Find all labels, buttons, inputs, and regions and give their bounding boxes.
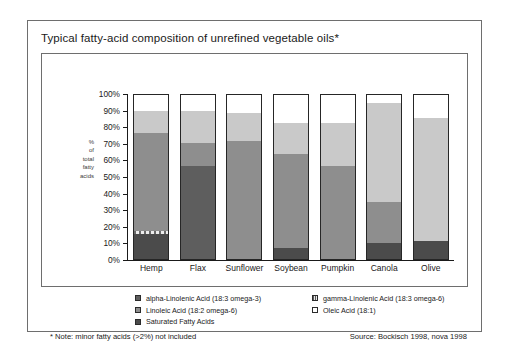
x-axis-category-label: Soybean xyxy=(268,263,315,273)
y-axis-tick-label: 10% xyxy=(103,238,120,248)
bar-segment-blank xyxy=(134,95,168,111)
y-axis-tick-label: 40% xyxy=(103,189,120,199)
bar-slot xyxy=(221,94,268,260)
legend-column-left: alpha-Linolenic Acid (18:3 omega-3)Linol… xyxy=(135,293,261,328)
y-axis-tick-mark xyxy=(123,94,127,95)
footer-note: * Note: minor fatty acids (>2%) not incl… xyxy=(50,332,196,341)
bar-segment-alpha xyxy=(181,166,215,259)
stacked-bar[interactable] xyxy=(226,94,262,260)
bar-segment-sat xyxy=(414,241,448,259)
stacked-bar[interactable] xyxy=(320,94,356,260)
x-axis-category-label: Flax xyxy=(175,263,222,273)
chart-legend: alpha-Linolenic Acid (18:3 omega-3)Linol… xyxy=(50,293,470,327)
bar-segment-blank xyxy=(414,95,448,118)
legend-item[interactable]: gamma-Linolenic Acid (18:3 omega-6) xyxy=(312,293,444,304)
stacked-bar[interactable] xyxy=(366,94,402,260)
stacked-bar[interactable] xyxy=(133,94,169,260)
bar-slot xyxy=(268,94,315,260)
y-axis-tick-label: 20% xyxy=(103,222,120,232)
stacked-bar[interactable] xyxy=(413,94,449,260)
bar-segment-linoleic xyxy=(321,166,355,259)
figure-outer-frame: Typical fatty-acid composition of unrefi… xyxy=(27,20,482,332)
y-axis-tick-mark xyxy=(123,227,127,228)
footer-source: Source: Bockisch 1998, nova 1998 xyxy=(350,332,467,341)
x-axis-category-label: Sunflower xyxy=(221,263,268,273)
bar-segment-linoleic xyxy=(367,202,401,243)
bar-segment-oleic xyxy=(181,111,215,142)
legend-swatch-icon xyxy=(135,319,141,325)
legend-item-label: gamma-Linolenic Acid (18:3 omega-6) xyxy=(323,294,444,303)
stacked-bar[interactable] xyxy=(273,94,309,260)
legend-swatch-icon xyxy=(135,307,141,313)
bar-segment-oleic xyxy=(274,123,308,154)
chart-inner-frame: %oftotalfattyacids 100%90%80%70%60%50%40… xyxy=(41,53,468,287)
y-axis-tick-mark xyxy=(123,111,127,112)
legend-column-right: gamma-Linolenic Acid (18:3 omega-6)Oleic… xyxy=(312,293,444,317)
x-axis-category-label: Canola xyxy=(361,263,408,273)
bar-segment-oleic xyxy=(367,103,401,201)
legend-item[interactable]: Linoleic Acid (18:2 omega-6) xyxy=(135,305,261,316)
legend-item-label: Saturated Fatty Acids xyxy=(146,317,214,326)
y-axis-tick-label: 100% xyxy=(99,89,120,99)
x-axis-category-label: Olive xyxy=(407,263,454,273)
x-axis-line xyxy=(127,260,454,261)
bar-segment-blank xyxy=(367,95,401,103)
x-axis-category-label: Pumpkin xyxy=(314,263,361,273)
y-axis-tick-label: 60% xyxy=(103,155,120,165)
y-axis-tick-mark xyxy=(123,194,127,195)
y-axis-tick-mark xyxy=(123,210,127,211)
y-axis-tick-labels: 100%90%80%70%60%50%40%30%20%10%0% xyxy=(90,94,124,260)
y-axis-tick-mark xyxy=(123,144,127,145)
bar-segment-sat xyxy=(134,234,168,259)
bar-segment-oleic xyxy=(134,111,168,132)
bar-slot xyxy=(314,94,361,260)
y-axis-tick-mark xyxy=(123,160,127,161)
legend-item-label: Linoleic Acid (18:2 omega-6) xyxy=(146,306,237,315)
y-axis-tick-label: 50% xyxy=(103,172,120,182)
y-axis-tick-label: 90% xyxy=(103,106,120,116)
bar-slot xyxy=(128,94,175,260)
y-axis-tick-label: 30% xyxy=(103,205,120,215)
bar-segment-linoleic xyxy=(274,154,308,247)
y-axis-tick-label: 0% xyxy=(108,255,120,265)
bar-segment-oleic xyxy=(321,123,355,166)
stacked-bar[interactable] xyxy=(180,94,216,260)
y-axis-tick-label: 80% xyxy=(103,122,120,132)
legend-item-label: alpha-Linolenic Acid (18:3 omega-3) xyxy=(146,294,261,303)
y-axis-tick-mark xyxy=(123,260,127,261)
legend-swatch-icon xyxy=(312,307,318,313)
legend-swatch-icon xyxy=(135,295,141,301)
bar-segment-blank xyxy=(274,95,308,123)
bar-segment-blank xyxy=(321,95,355,123)
x-axis-category-labels: HempFlaxSunflowerSoybeanPumpkinCanolaOli… xyxy=(128,263,454,273)
x-axis-category-label: Hemp xyxy=(128,263,175,273)
y-axis-tick-label: 70% xyxy=(103,139,120,149)
plot-area: %oftotalfattyacids 100%90%80%70%60%50%40… xyxy=(42,54,469,288)
bar-slot xyxy=(175,94,222,260)
bar-segment-linoleic xyxy=(181,143,215,166)
chart-title: Typical fatty-acid composition of unrefi… xyxy=(41,32,339,44)
y-axis-tick-mark xyxy=(123,127,127,128)
legend-item[interactable]: Oleic Acid (18:1) xyxy=(312,305,444,316)
legend-item-label: Oleic Acid (18:1) xyxy=(323,306,376,315)
legend-swatch-icon xyxy=(312,295,318,301)
legend-item[interactable]: alpha-Linolenic Acid (18:3 omega-3) xyxy=(135,293,261,304)
bar-slot xyxy=(361,94,408,260)
bars-container xyxy=(128,94,454,260)
y-axis-tick-mark xyxy=(123,177,127,178)
bar-segment-sat xyxy=(274,248,308,259)
bar-segment-linoleic xyxy=(134,133,168,231)
bar-segment-blank xyxy=(227,95,261,113)
bar-segment-oleic xyxy=(227,113,261,141)
bar-slot xyxy=(407,94,454,260)
bar-segment-linoleic xyxy=(227,141,261,259)
bar-segment-blank xyxy=(181,95,215,111)
y-axis-tick-mark xyxy=(123,243,127,244)
bar-segment-sat xyxy=(367,243,401,259)
bar-segment-oleic xyxy=(414,118,448,241)
legend-item[interactable]: Saturated Fatty Acids xyxy=(135,317,261,328)
